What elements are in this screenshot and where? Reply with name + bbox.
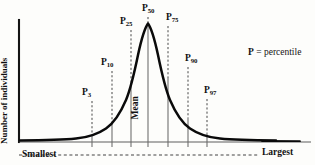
chart-canvas	[0, 0, 315, 165]
percentile-label-p25: P25	[120, 17, 132, 27]
mean-label: Mean	[131, 96, 141, 119]
percentile-sub-p90: 90	[191, 57, 198, 64]
percentile-label-p3: P3	[82, 88, 91, 98]
percentile-sub-p75: 75	[172, 16, 179, 23]
percentile-sub-p10: 10	[107, 61, 114, 68]
legend-percentile: P = percentile	[248, 48, 301, 58]
percentile-label-p50: P50	[142, 4, 154, 14]
normal-distribution-figure: Number of individuals Mean P3 P10 P25 P5…	[0, 0, 315, 165]
x-axis-smallest-label: Smallest	[22, 150, 56, 160]
legend-equals: =	[254, 47, 264, 57]
percentile-sub-p97: 97	[210, 89, 217, 96]
percentile-leader-dashes	[92, 17, 207, 136]
y-axis-title: Number of individuals	[0, 58, 9, 144]
percentile-label-p97: P97	[204, 86, 216, 96]
legend-meaning: percentile	[264, 47, 301, 57]
percentile-label-p75: P75	[166, 13, 178, 23]
percentile-label-p10: P10	[101, 58, 113, 68]
percentile-sub-p25: 25	[126, 20, 133, 27]
percentile-sub-p50: 50	[148, 7, 155, 14]
percentile-label-p90: P90	[185, 54, 197, 64]
percentile-sub-p3: 3	[88, 91, 91, 98]
x-axis-largest-label: Largest	[262, 148, 293, 158]
